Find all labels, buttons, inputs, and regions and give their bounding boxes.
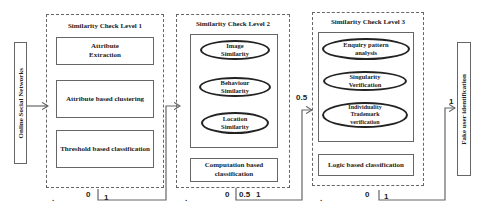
- individuality-trademark-ellipse: Individuality Trademark verification: [322, 102, 408, 128]
- singularity-verification-ellipse: Singularity Verification: [323, 71, 407, 91]
- level3-dot: .: [320, 194, 322, 203]
- level1-title: Similarity Check Level 1: [46, 22, 164, 30]
- input-node-label: Online Social Networks: [17, 68, 25, 138]
- level2-title: Similarity Check Level 2: [176, 20, 290, 28]
- level2-output-0: 0: [225, 190, 229, 199]
- threshold-classification-box: Threshold based classification: [56, 130, 154, 168]
- level3-title: Similarity Check Level 3: [312, 18, 424, 26]
- output-node: Fake user identification: [457, 42, 471, 176]
- attribute-clustering-box: Attribute based clustering: [56, 80, 154, 118]
- level3-output-0: 0: [365, 190, 369, 199]
- level3-output-1: 1: [384, 192, 388, 201]
- attribute-extraction-box: Attribute Extraction: [56, 37, 154, 65]
- level2-output-0-5: 0.5: [239, 190, 250, 199]
- level1-dot: .: [52, 194, 54, 203]
- enquiry-pattern-ellipse: Enquiry pattern analysis: [322, 38, 410, 60]
- level1-output-1: 1: [104, 193, 108, 202]
- location-similarity-ellipse: Location Similarity: [201, 112, 269, 134]
- edge-label-1: 1: [449, 97, 453, 106]
- level2-dot: .: [185, 194, 187, 203]
- output-node-label: Fake user identification: [460, 74, 468, 145]
- edge-label-0-5: 0.5: [296, 93, 307, 102]
- level1-output-0: 0: [86, 190, 90, 199]
- level2-output-1: 1: [256, 190, 260, 199]
- computation-classification-box: Computation based classification: [190, 158, 278, 182]
- behaviour-similarity-ellipse: Behaviour Similarity: [199, 77, 271, 97]
- image-similarity-ellipse: Image Similarity: [200, 40, 270, 60]
- logic-classification-box: Logic based classification: [318, 154, 414, 176]
- input-node: Online Social Networks: [14, 42, 27, 164]
